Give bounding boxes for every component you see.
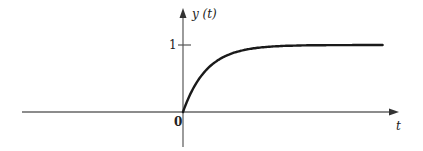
origin-label: 0	[174, 116, 182, 128]
y-tick-label-one: 1	[169, 39, 177, 51]
x-axis-label: t	[396, 120, 401, 132]
chart-canvas	[0, 0, 423, 151]
x-axis-arrow-icon	[389, 109, 399, 116]
step-response-chart: y (t) 1 0 t	[0, 0, 423, 151]
y-axis-arrow-icon	[180, 8, 187, 18]
response-curve	[183, 45, 383, 112]
y-axis-label: y (t)	[192, 8, 217, 20]
